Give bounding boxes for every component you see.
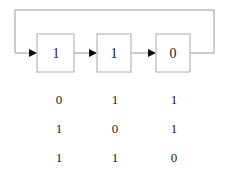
shift-register-diagram: 1 1 0 [0,0,225,173]
state-cell: 0 [49,93,69,107]
state-cell: 1 [105,151,125,165]
register-value-1: 1 [53,46,60,61]
state-cell: 1 [49,151,69,165]
register-value-3: 0 [170,46,177,61]
state-cell: 0 [105,122,125,136]
register-value-2: 1 [111,46,118,61]
state-cell: 1 [164,93,184,107]
state-cell: 0 [164,151,184,165]
state-cell: 1 [164,122,184,136]
state-cell: 1 [105,93,125,107]
state-cell: 1 [49,122,69,136]
